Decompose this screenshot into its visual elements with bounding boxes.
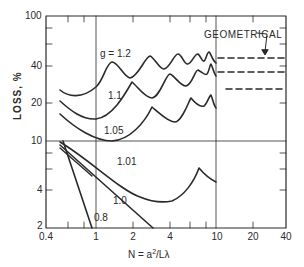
y-tick-40: 40 bbox=[31, 61, 42, 71]
x-tick-10: 10 bbox=[211, 232, 222, 242]
label-g-1.0: 1.0 bbox=[113, 196, 127, 206]
curve-g-1.05 bbox=[60, 95, 216, 141]
y-tick-4: 4 bbox=[37, 185, 43, 195]
x-axis-label: N = a2/Lλ bbox=[128, 248, 169, 260]
x-tick-1: 1 bbox=[93, 232, 99, 242]
y-ticks-right bbox=[280, 28, 286, 190]
y-tick-2: 2 bbox=[37, 221, 43, 231]
geometrical-limits bbox=[218, 58, 286, 89]
x-tick-0.4: 0.4 bbox=[39, 232, 53, 242]
label-g-0.8: 0.8 bbox=[94, 213, 108, 223]
y-tick-20: 20 bbox=[31, 98, 42, 108]
geometrical-arrowhead bbox=[262, 50, 268, 55]
x-tick-4: 4 bbox=[167, 232, 173, 242]
y-tick-100: 100 bbox=[25, 11, 42, 21]
x-axis-label-prefix: N = a bbox=[128, 249, 152, 260]
y-ticks-left bbox=[46, 28, 52, 190]
loss-vs-fresnel-number-chart bbox=[0, 0, 304, 267]
label-g-1.1: 1.1 bbox=[108, 91, 122, 101]
x-tick-2: 2 bbox=[130, 232, 136, 242]
x-axis-label-suffix: /Lλ bbox=[156, 249, 169, 260]
label-g-1.05: 1.05 bbox=[104, 126, 123, 136]
y-tick-10: 10 bbox=[31, 136, 42, 146]
label-geometrical: GEOMETRICAL bbox=[204, 29, 282, 40]
x-tick-20: 20 bbox=[247, 232, 258, 242]
curve-g-1.01 bbox=[60, 142, 216, 202]
y-axis-label: LOSS, % bbox=[12, 71, 23, 120]
x-tick-40: 40 bbox=[280, 232, 291, 242]
label-g-1.2: g = 1.2 bbox=[100, 49, 131, 59]
label-g-1.01: 1.01 bbox=[117, 157, 136, 167]
